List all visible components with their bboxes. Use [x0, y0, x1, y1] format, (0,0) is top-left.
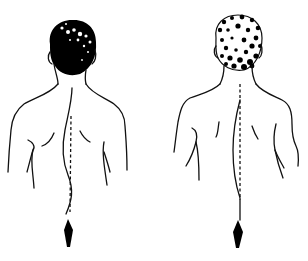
- shoulder-right: [86, 84, 127, 170]
- figure-left: [8, 20, 127, 247]
- spine-straight: [233, 100, 240, 220]
- posture-illustration: [0, 0, 308, 261]
- shoulder-left: [8, 84, 58, 172]
- figure-right: [174, 15, 298, 248]
- plumb-weight-left-icon: [64, 219, 73, 247]
- neck-right-side: [252, 66, 256, 84]
- shoulder-left: [174, 84, 220, 152]
- head-left: [48, 20, 96, 75]
- illustration-svg: [0, 0, 308, 261]
- plumb-weight-right-icon: [233, 220, 243, 248]
- head-right: [214, 15, 262, 71]
- neck-left-side: [220, 66, 224, 84]
- neck-right-side: [85, 70, 86, 84]
